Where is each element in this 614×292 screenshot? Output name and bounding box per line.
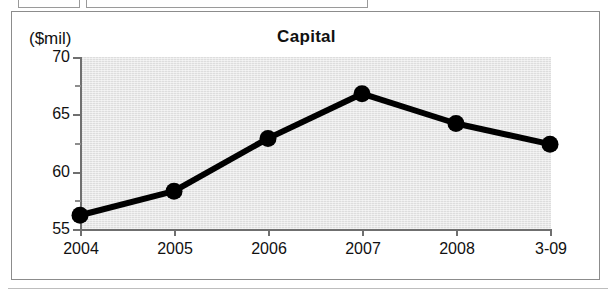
y-axis-minor-tick-67-5: [75, 85, 81, 87]
y-axis-label-65: 65: [30, 106, 70, 122]
x-axis-tick-2005: [174, 229, 176, 236]
x-axis-tick-2008: [456, 229, 458, 236]
scan-artifact-fragment-left: [18, 0, 80, 8]
x-axis-label-2006: 2006: [229, 240, 309, 258]
x-axis-tick-2006: [268, 229, 270, 236]
x-axis-tick-2004: [80, 229, 82, 236]
chart-figure-box: ($mil) Capital 70 65 60 55 2004 2005 200…: [11, 11, 600, 280]
y-axis-tick-65: [73, 114, 81, 116]
x-axis-label-2007: 2007: [323, 240, 403, 258]
plot-background-texture: [80, 57, 551, 229]
x-axis-label-3-09: 3-09: [511, 240, 591, 258]
x-axis-line: [80, 229, 552, 231]
y-axis-label-55: 55: [30, 221, 70, 237]
page-bottom-rule: [8, 288, 608, 289]
x-axis-label-2004: 2004: [41, 240, 121, 258]
y-axis-minor-tick-57-5: [75, 200, 81, 202]
x-axis-tick-3-09: [550, 229, 552, 236]
y-axis-label-60: 60: [30, 164, 70, 180]
x-axis-tick-2007: [362, 229, 364, 236]
plot-area: [80, 57, 551, 229]
scan-artifact-fragment-right: [86, 0, 368, 8]
y-axis-minor-tick-62-5: [75, 143, 81, 145]
chart-title: Capital: [12, 27, 601, 47]
x-axis-label-2008: 2008: [417, 240, 497, 258]
scan-artifact-top-strip: [0, 0, 614, 9]
y-axis-tick-60: [73, 172, 81, 174]
y-axis-label-70: 70: [30, 49, 70, 65]
x-axis-label-2005: 2005: [135, 240, 215, 258]
y-axis-tick-70: [73, 57, 81, 59]
